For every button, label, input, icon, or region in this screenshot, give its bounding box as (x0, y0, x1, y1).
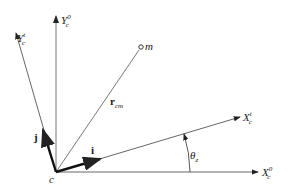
label-j: j (34, 132, 38, 143)
unit-j-vector (43, 130, 56, 172)
label-y0: Y0c (61, 14, 69, 29)
label-i: i (91, 145, 94, 156)
label-m: m (145, 41, 153, 52)
label-x0: X0c (262, 166, 270, 181)
diagram-canvas (0, 0, 292, 188)
label-theta-z: θz (190, 150, 198, 164)
label-yt: Ytc (17, 32, 25, 47)
unit-i-vector (56, 159, 100, 172)
label-origin-c: c (49, 174, 54, 185)
label-xt: Xtc (243, 111, 252, 126)
point-m (139, 45, 143, 49)
r-cm-vector (56, 50, 139, 172)
label-r-cm: rcm (110, 96, 123, 110)
